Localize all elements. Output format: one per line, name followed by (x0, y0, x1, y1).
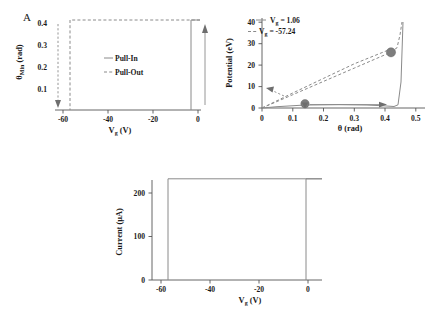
panel-b-xtick-0: 0 (260, 114, 264, 123)
panel-c-xlabel-unit: (V) (248, 296, 262, 305)
panel-b-ylabel: Potential (eV) (225, 38, 234, 88)
svg-text:θMin (rad): θMin (rad) (15, 44, 25, 79)
panel-a-series-pull-out (70, 20, 200, 110)
panel-a-xtick-2: -20 (148, 115, 158, 124)
panel-b-xtick-1: 0.1 (288, 114, 298, 123)
panel-b-xtick-3: 0.3 (350, 114, 360, 123)
panel-c-xtick-3: 0 (306, 285, 310, 294)
panel-b-xtick-2: 0.2 (319, 114, 329, 123)
panel-b-ytick-1: 10 (247, 82, 255, 91)
panel-a-xtick-0: -60 (58, 115, 68, 124)
panel-a-plot: 0.4 0.3 0.2 0.1 θMin (rad) -60 -40 -20 0 (0, 0, 220, 150)
panel-c-series-pull-in (306, 179, 322, 280)
panel-b-xlabel: θ (rad) (338, 124, 363, 133)
panel-a-ytick-0: 0.4 (38, 19, 48, 28)
panel-c-ytick-0: 0 (141, 276, 145, 285)
panel-c-xtick-2: -20 (254, 285, 264, 294)
panel-b-arrow-left-head (266, 87, 274, 93)
panel-c-plot: 0 100 200 Current (μA) -60 -40 -20 0 Vg … (100, 158, 350, 313)
panel-b-ytick-3: 30 (247, 39, 255, 48)
panel-a-series-pull-in (191, 20, 200, 110)
panel-a-legend-label-0: Pull-In (115, 54, 139, 63)
panel-a-label: A (23, 11, 31, 23)
panel-b-arrow-left-line (271, 90, 284, 96)
panel-c-xtick-0: -60 (156, 285, 166, 294)
panel-c-ytick-2: 200 (134, 189, 146, 198)
panel-a-xlabel-unit: (V) (118, 126, 132, 135)
panel-c-xlabel: Vg (V) (239, 296, 262, 306)
panel-a: A 0.4 0.3 0.2 0.1 θMin (rad) -60 -40 (0, 0, 220, 150)
panel-a-xtick-3: 0 (196, 115, 200, 124)
panel-b-legend-label-0: Vg = 1.06 (270, 16, 300, 26)
panel-c: C 0 100 200 Current (μA) -60 -40 -20 (100, 158, 350, 313)
panel-b-legend: Vg = 1.06 Vg = -57.24 (248, 16, 300, 38)
panel-b-xtick-5: 0.5 (411, 114, 421, 123)
panel-a-arrow-up-head (202, 24, 208, 33)
panel-a-ylabel-sub: Min (19, 64, 25, 75)
panel-b-plot: 0 10 20 30 40 Potential (eV) 0 0.1 0.2 0… (210, 0, 445, 150)
panel-a-legend-label-1: Pull-Out (115, 68, 144, 77)
panel-a-xtick-1: -40 (103, 115, 113, 124)
panel-c-ylabel-text: Current (μA) (115, 208, 124, 256)
panel-b-ytick-4: 40 (247, 18, 255, 27)
panel-c-ytick-1: 100 (134, 232, 146, 241)
panel-a-legend: Pull-In Pull-Out (104, 54, 144, 77)
panel-b-legend-label-1: Vg = -57.24 (259, 27, 295, 37)
panel-a-ylabel: θMin (rad) (15, 44, 25, 79)
panel-b-arrow-right-head (379, 102, 387, 108)
panel-b-legend-label-0-rest: = 1.06 (278, 16, 300, 25)
panel-b-marker-high-theta (386, 48, 395, 57)
panel-a-ytick-3: 0.1 (38, 85, 48, 94)
panel-b-legend-label-1-rest: = -57.24 (267, 27, 295, 36)
panel-c-xtick-1: -40 (205, 285, 215, 294)
panel-b-xtick-4: 0.4 (380, 114, 390, 123)
panel-a-xlabel: Vg (V) (109, 126, 132, 136)
panel-a-ylabel-unit: (rad) (15, 44, 24, 64)
panel-a-ytick-1: 0.3 (38, 41, 48, 50)
panel-b-ytick-0: 0 (251, 104, 255, 113)
panel-c-series-pull-out (168, 179, 322, 280)
panel-b-ytick-2: 20 (247, 61, 255, 70)
panel-b: B 0 10 20 30 40 Potential (eV) (210, 0, 445, 150)
figure-canvas: A 0.4 0.3 0.2 0.1 θMin (rad) -60 -40 (0, 0, 445, 313)
panel-a-arrow-down-head (55, 100, 61, 108)
panel-a-ytick-2: 0.2 (38, 63, 48, 72)
panel-c-ylabel: Current (μA) (115, 208, 124, 256)
panel-b-ylabel-text: Potential (eV) (225, 38, 234, 88)
